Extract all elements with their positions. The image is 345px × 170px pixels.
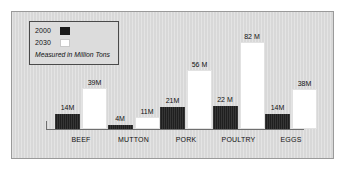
bar-2030-poultry: 82 M	[240, 42, 265, 129]
bar-group: 4M11MMUTTON	[108, 34, 160, 129]
bar-2000-pork: 21M	[160, 107, 185, 129]
plot-area: 14M39MBEEF4M11MMUTTON21M56 MPORK22 M82 M…	[12, 12, 334, 159]
category-label-pork: PORK	[176, 136, 197, 143]
bar-chart-figure: 2000 2030 Measured in Million Tons 14M39…	[0, 0, 345, 170]
bar-value-label: 39M	[88, 79, 102, 87]
x-axis-left-cap	[46, 121, 47, 130]
bar-2000-mutton: 4M	[108, 125, 133, 129]
bar-group: 14M38MEGGS	[265, 34, 317, 129]
bar-group: 22 M82 MPOULTRY	[213, 34, 265, 129]
bar-2030-pork: 56 M	[187, 70, 212, 129]
bar-2030-beef: 39M	[82, 88, 107, 129]
bar-2000-beef: 14M	[55, 114, 80, 129]
x-axis-line	[46, 129, 304, 130]
bar-2000-poultry: 22 M	[213, 106, 238, 129]
category-label-mutton: MUTTON	[118, 136, 149, 143]
bar-2000-eggs: 14M	[265, 114, 290, 129]
bar-value-label: 22 M	[217, 96, 233, 104]
bar-group: 21M56 MPORK	[160, 34, 212, 129]
chart-plate: 2000 2030 Measured in Million Tons 14M39…	[11, 11, 334, 159]
category-label-poultry: POULTRY	[222, 136, 256, 143]
bar-group: 14M39MBEEF	[55, 34, 107, 129]
bar-value-label: 14M	[271, 104, 285, 112]
bar-value-label: 4M	[115, 115, 125, 123]
bar-2030-mutton: 11M	[135, 117, 160, 129]
bar-2030-eggs: 38M	[292, 89, 317, 129]
bar-value-label: 21M	[166, 97, 180, 105]
category-label-beef: BEEF	[71, 136, 90, 143]
bar-value-label: 14M	[61, 104, 75, 112]
category-label-eggs: EGGS	[280, 136, 301, 143]
bar-value-label: 38M	[298, 80, 312, 88]
bar-value-label: 11M	[140, 108, 153, 116]
bar-value-label: 56 M	[192, 61, 208, 69]
bar-value-label: 82 M	[244, 33, 260, 41]
